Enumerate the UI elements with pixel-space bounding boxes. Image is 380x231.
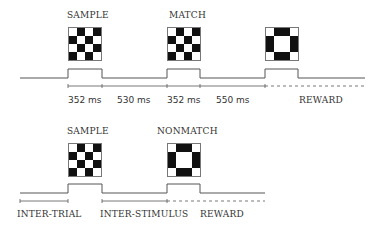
match-duration-label: 352 ms — [167, 95, 201, 105]
black-cell — [168, 152, 176, 160]
white-cell — [77, 168, 85, 176]
black-cell — [85, 152, 93, 160]
black-cell — [93, 160, 101, 168]
white-cell — [69, 28, 77, 36]
black-cell — [192, 160, 200, 168]
black-cell — [85, 52, 93, 60]
white-cell — [176, 36, 184, 44]
nonmatch-trial-sample-checkerboard — [68, 143, 102, 177]
inter-trial-label: INTER-TRIAL — [17, 209, 82, 219]
black-cell — [77, 44, 85, 52]
black-cell — [282, 28, 290, 36]
black-cell — [192, 152, 200, 160]
white-cell — [192, 36, 200, 44]
white-cell — [290, 52, 298, 60]
black-cell — [176, 168, 184, 176]
white-cell — [69, 44, 77, 52]
white-cell — [93, 152, 101, 160]
white-cell — [192, 52, 200, 60]
white-cell — [69, 144, 77, 152]
black-cell — [192, 44, 200, 52]
black-cell — [93, 28, 101, 36]
black-cell — [184, 168, 192, 176]
white-cell — [282, 44, 290, 52]
nonmatch-trial-stimulus-trace — [20, 184, 265, 193]
black-cell — [282, 52, 290, 60]
black-cell — [176, 144, 184, 152]
match-trial-sample-label: SAMPLE — [67, 10, 109, 20]
black-cell — [168, 52, 176, 60]
white-cell — [168, 28, 176, 36]
match-trial-match-checkerboard — [167, 27, 201, 61]
black-cell — [77, 144, 85, 152]
white-cell — [93, 168, 101, 176]
black-cell — [77, 28, 85, 36]
nonmatch-trial-nonmatch-label: NONMATCH — [157, 126, 218, 136]
white-cell — [266, 28, 274, 36]
white-cell — [274, 44, 282, 52]
white-cell — [282, 36, 290, 44]
white-cell — [192, 144, 200, 152]
inter-stimulus-label: INTER-STIMULUS — [100, 209, 188, 219]
black-cell — [192, 28, 200, 36]
black-cell — [69, 52, 77, 60]
white-cell — [77, 152, 85, 160]
sample-duration-label: 352 ms — [68, 95, 102, 105]
nonmatch-trial-ring-stimulus — [167, 143, 201, 177]
black-cell — [274, 52, 282, 60]
black-cell — [290, 36, 298, 44]
black-cell — [93, 44, 101, 52]
black-cell — [168, 160, 176, 168]
nonmatch-trial-timeline — [20, 199, 265, 203]
black-cell — [184, 144, 192, 152]
black-cell — [69, 168, 77, 176]
white-cell — [69, 160, 77, 168]
black-cell — [184, 52, 192, 60]
nonmatch-trial-reward-label: REWARD — [200, 209, 244, 219]
white-cell — [184, 152, 192, 160]
nonmatch-trial-sample-label: SAMPLE — [67, 126, 109, 136]
white-cell — [176, 160, 184, 168]
match-trial-reward-label: REWARD — [299, 95, 343, 105]
black-cell — [85, 36, 93, 44]
black-cell — [69, 36, 77, 44]
white-cell — [85, 144, 93, 152]
black-cell — [69, 152, 77, 160]
black-cell — [184, 36, 192, 44]
white-cell — [184, 28, 192, 36]
black-cell — [266, 36, 274, 44]
white-cell — [266, 52, 274, 60]
white-cell — [93, 36, 101, 44]
black-cell — [290, 44, 298, 52]
black-cell — [274, 28, 282, 36]
match-trial-timeline — [68, 84, 365, 88]
black-cell — [85, 168, 93, 176]
match-trial-ring-stimulus — [265, 27, 299, 61]
white-cell — [77, 36, 85, 44]
white-cell — [274, 36, 282, 44]
match-trial-stimulus-trace — [20, 69, 365, 78]
black-cell — [93, 144, 101, 152]
white-cell — [85, 160, 93, 168]
white-cell — [184, 44, 192, 52]
match-trial-match-label: MATCH — [169, 10, 206, 20]
white-cell — [176, 52, 184, 60]
black-cell — [266, 44, 274, 52]
white-cell — [77, 52, 85, 60]
white-cell — [168, 168, 176, 176]
white-cell — [85, 44, 93, 52]
delay-duration-label: 530 ms — [117, 95, 151, 105]
white-cell — [176, 152, 184, 160]
white-cell — [85, 28, 93, 36]
black-cell — [168, 36, 176, 44]
black-cell — [176, 28, 184, 36]
white-cell — [93, 52, 101, 60]
match-trial-sample-checkerboard — [68, 27, 102, 61]
white-cell — [168, 44, 176, 52]
white-cell — [290, 28, 298, 36]
white-cell — [192, 168, 200, 176]
white-cell — [168, 144, 176, 152]
white-cell — [184, 160, 192, 168]
post-match-duration-label: 550 ms — [216, 95, 250, 105]
black-cell — [77, 160, 85, 168]
